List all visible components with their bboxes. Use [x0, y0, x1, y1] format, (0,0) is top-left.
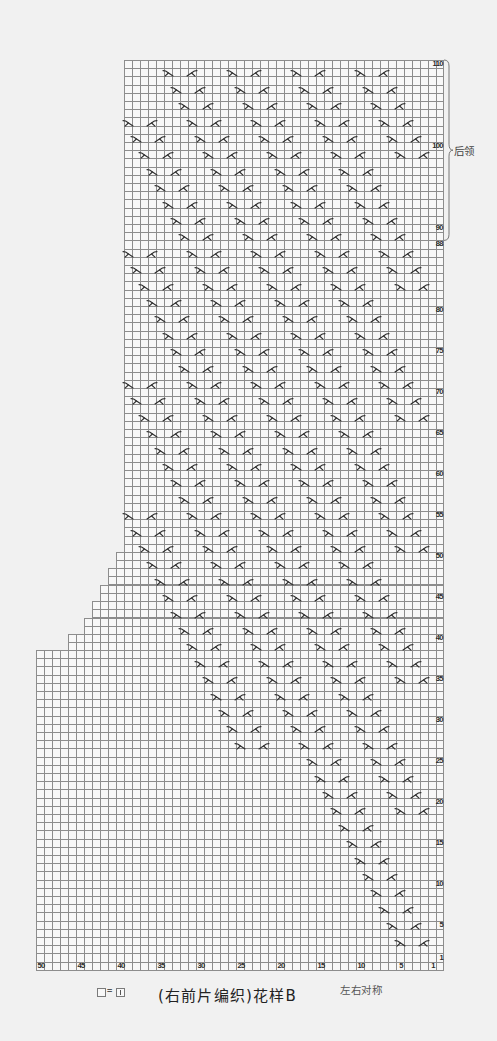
left-cross-icon: [234, 692, 246, 701]
left-cross-icon: [306, 183, 318, 192]
right-cross-icon: [354, 200, 366, 209]
right-cross-icon: [226, 724, 238, 733]
right-cross-icon: [154, 446, 166, 455]
left-cross-icon: [178, 183, 190, 192]
left-cross-icon: [410, 265, 422, 274]
right-cross-icon: [306, 101, 318, 110]
chart-title: (右前片编织)花样B: [158, 984, 297, 1005]
right-cross-icon: [282, 446, 294, 455]
left-cross-icon: [418, 413, 430, 422]
left-cross-icon: [314, 68, 326, 77]
left-cross-icon: [210, 642, 222, 651]
right-cross-icon: [242, 364, 254, 373]
row-number-label: 50: [427, 552, 443, 560]
right-cross-icon: [250, 511, 262, 520]
legend-equals-sign: =: [107, 986, 112, 996]
right-cross-icon: [218, 708, 230, 717]
symmetry-note: 左右对称: [340, 982, 382, 997]
left-cross-icon: [202, 364, 214, 373]
column-number-label: 45: [73, 962, 89, 970]
left-cross-icon: [314, 462, 326, 471]
left-cross-icon: [290, 544, 302, 553]
right-cross-icon: [146, 298, 158, 307]
left-cross-icon: [354, 413, 366, 422]
left-cross-icon: [338, 380, 350, 389]
left-cross-icon: [242, 314, 254, 323]
right-cross-icon: [234, 741, 246, 750]
right-cross-icon: [266, 282, 278, 291]
right-cross-icon: [138, 282, 150, 291]
right-cross-icon: [330, 413, 342, 422]
right-cross-icon: [282, 183, 294, 192]
column-number-label: 1: [425, 962, 441, 970]
right-cross-icon: [394, 806, 406, 815]
right-cross-icon: [314, 511, 326, 520]
row-number-label: 90: [427, 224, 443, 232]
left-cross-icon: [410, 396, 422, 405]
row-number-label: 15: [427, 839, 443, 847]
left-cross-icon: [386, 872, 398, 881]
left-cross-icon: [250, 200, 262, 209]
right-cross-icon: [138, 544, 150, 553]
left-cross-icon: [258, 216, 270, 225]
left-cross-icon: [266, 626, 278, 635]
right-cross-icon: [346, 446, 358, 455]
column-number-label: 35: [153, 962, 169, 970]
left-cross-icon: [330, 364, 342, 373]
left-cross-icon: [394, 757, 406, 766]
right-cross-icon: [226, 593, 238, 602]
left-cross-icon: [402, 642, 414, 651]
right-cross-icon: [122, 511, 134, 520]
right-cross-icon: [210, 167, 222, 176]
right-cross-icon: [178, 364, 190, 373]
right-cross-icon: [242, 626, 254, 635]
right-cross-icon: [250, 249, 262, 258]
left-cross-icon: [250, 724, 262, 733]
left-cross-icon: [210, 118, 222, 127]
left-cross-icon: [226, 675, 238, 684]
left-cross-icon: [338, 511, 350, 520]
right-cross-icon: [322, 659, 334, 668]
right-cross-icon: [170, 85, 182, 94]
right-cross-icon: [258, 659, 270, 668]
left-cross-icon: [394, 101, 406, 110]
right-cross-icon: [274, 692, 286, 701]
right-cross-icon: [394, 675, 406, 684]
row-number-label: 75: [427, 347, 443, 355]
left-cross-icon: [370, 183, 382, 192]
right-cross-icon: [258, 134, 270, 143]
right-cross-icon: [346, 577, 358, 586]
left-cross-icon: [386, 610, 398, 619]
left-cross-icon: [186, 331, 198, 340]
right-cross-icon: [306, 626, 318, 635]
right-cross-icon: [242, 232, 254, 241]
row-number-label: 40: [427, 634, 443, 642]
right-cross-icon: [378, 642, 390, 651]
left-cross-icon: [146, 380, 158, 389]
left-cross-icon: [162, 413, 174, 422]
left-cross-icon: [274, 380, 286, 389]
row-number-label: 110: [427, 60, 443, 68]
right-cross-icon: [194, 659, 206, 668]
right-cross-icon: [234, 478, 246, 487]
right-cross-icon: [162, 200, 174, 209]
right-cross-icon: [162, 462, 174, 471]
left-cross-icon: [258, 347, 270, 356]
right-cross-icon: [330, 806, 342, 815]
left-cross-icon: [378, 724, 390, 733]
right-cross-icon: [210, 429, 222, 438]
right-cross-icon: [130, 396, 142, 405]
right-cross-icon: [386, 528, 398, 537]
left-cross-icon: [242, 446, 254, 455]
right-cross-icon: [354, 68, 366, 77]
left-cross-icon: [370, 314, 382, 323]
right-cross-icon: [210, 298, 222, 307]
right-cross-icon: [226, 200, 238, 209]
knitting-chart-page: 1101009088807570656055504540353025201510…: [0, 0, 497, 1041]
right-cross-icon: [330, 150, 342, 159]
right-cross-icon: [322, 528, 334, 537]
left-cross-icon: [298, 167, 310, 176]
right-cross-icon: [250, 642, 262, 651]
left-cross-icon: [146, 118, 158, 127]
right-cross-icon: [274, 429, 286, 438]
